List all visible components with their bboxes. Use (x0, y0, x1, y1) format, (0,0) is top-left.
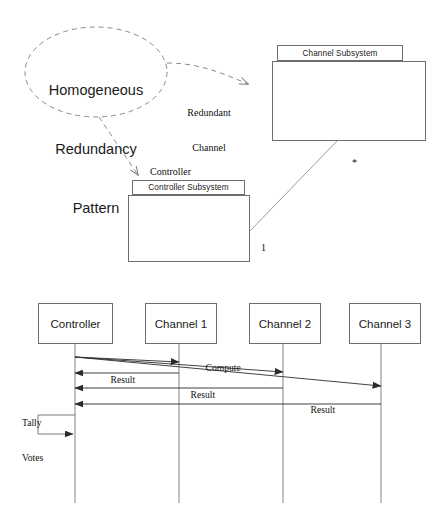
lifeline-label-channel-3: Channel 3 (359, 318, 411, 330)
uml-diagram-canvas: Homogeneous Redundancy Pattern Channel S… (0, 0, 436, 528)
lifeline-label-channel-2: Channel 2 (259, 318, 311, 330)
lifeline-head-channel-1: Channel 1 (145, 303, 217, 344)
result-1-text: Result (111, 374, 136, 385)
self-message-label-tally-votes: Tally Votes (22, 394, 56, 486)
result-3-text: Result (311, 404, 336, 415)
lifeline-head-controller: Controller (38, 303, 113, 344)
compute-text: Compute (206, 362, 241, 373)
message-label-result-3: Result (301, 393, 335, 426)
dependency-arrow-channel (167, 63, 248, 84)
lifeline-label-channel-1: Channel 1 (155, 318, 207, 330)
package-body-controller-subsystem (128, 195, 250, 262)
message-compute-channel-1 (75, 357, 179, 362)
lifeline-head-channel-3: Channel 3 (349, 303, 421, 344)
association-line (248, 141, 337, 233)
multiplicity-controller-end: 1 (251, 230, 266, 265)
role-label-controller: Controller (140, 154, 200, 189)
package-label-channel-subsystem: Channel Subsystem (303, 49, 378, 58)
message-label-result-2: Result (181, 378, 215, 411)
multiplicity-star-text: * (352, 157, 357, 168)
multiplicity-one-text: 1 (261, 242, 266, 253)
result-2-text: Result (191, 389, 216, 400)
pattern-line-1: Homogeneous (26, 81, 166, 101)
lifeline-label-controller: Controller (51, 318, 101, 330)
redundant-channel-line-2: Channel (175, 142, 243, 154)
package-body-channel-subsystem (272, 61, 426, 141)
tally-line-1: Tally (22, 417, 56, 429)
controller-role-text: Controller (150, 166, 191, 177)
message-label-result-1: Result (101, 363, 135, 396)
multiplicity-channel-end: * (342, 145, 357, 180)
tally-line-2: Votes (22, 452, 56, 464)
redundant-channel-line-1: Redundant (175, 107, 243, 119)
lifeline-head-channel-2: Channel 2 (249, 303, 321, 344)
package-tab-channel-subsystem: Channel Subsystem (277, 45, 403, 61)
